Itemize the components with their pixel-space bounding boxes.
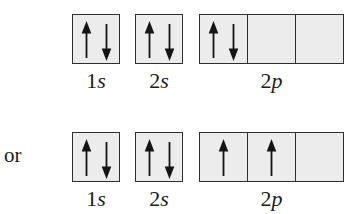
orbital-label-number: 2: [261, 68, 272, 93]
orbital-box-2s: [135, 132, 183, 182]
orbital-label-1s: 1s: [72, 186, 120, 212]
up-arrow-icon: [143, 21, 156, 58]
orbital-label-2s: 2s: [135, 186, 183, 212]
orbital-cell: [200, 15, 247, 63]
orbital-cell: [247, 15, 295, 63]
orbital-group-2p: 2p: [199, 132, 344, 182]
orbital-label-number: 2: [149, 186, 160, 211]
up-arrow-icon: [143, 139, 156, 176]
orbital-label-number: 2: [149, 68, 160, 93]
orbital-box-1s: [72, 132, 120, 182]
orbital-label-1s: 1s: [72, 68, 120, 94]
orbital-box-1s: [72, 14, 120, 64]
orbital-box-2p: [199, 132, 344, 182]
orbital-group-1s: 1s: [72, 14, 120, 64]
up-arrow-icon: [265, 139, 278, 176]
orbital-group-2s: 2s: [135, 14, 183, 64]
orbital-cell: [136, 15, 182, 63]
down-arrow-icon: [163, 142, 176, 179]
orbital-box-2p: [199, 14, 344, 64]
orbital-label-letter: p: [272, 186, 283, 211]
up-arrow-icon: [207, 21, 220, 58]
orbital-label-number: 1: [86, 186, 97, 211]
down-arrow-icon: [163, 24, 176, 61]
orbital-group-2p: 2p: [199, 14, 344, 64]
orbital-label-2p: 2p: [199, 68, 344, 94]
orbital-label-number: 1: [86, 68, 97, 93]
orbital-diagram-figure: 1s 2s 2p or 1s: [0, 0, 360, 214]
orbital-cell: [247, 133, 295, 181]
orbital-cell: [73, 15, 119, 63]
up-arrow-icon: [80, 139, 93, 176]
orbital-label-letter: s: [97, 186, 106, 211]
orbital-label-2p: 2p: [199, 186, 344, 212]
orbital-label-2s: 2s: [135, 68, 183, 94]
up-arrow-icon: [217, 139, 230, 176]
down-arrow-icon: [100, 142, 113, 179]
orbital-cell: [295, 15, 343, 63]
orbital-label-letter: s: [160, 68, 169, 93]
orbital-label-number: 2: [261, 186, 272, 211]
orbital-group-1s: 1s: [72, 132, 120, 182]
orbital-cell: [200, 133, 247, 181]
orbital-label-letter: s: [97, 68, 106, 93]
up-arrow-icon: [80, 21, 93, 58]
or-label: or: [4, 143, 22, 168]
orbital-cell: [136, 133, 182, 181]
orbital-label-letter: p: [272, 68, 283, 93]
orbital-cell: [295, 133, 343, 181]
orbital-box-2s: [135, 14, 183, 64]
orbital-label-letter: s: [160, 186, 169, 211]
down-arrow-icon: [100, 24, 113, 61]
orbital-group-2s: 2s: [135, 132, 183, 182]
down-arrow-icon: [227, 24, 240, 61]
orbital-cell: [73, 133, 119, 181]
